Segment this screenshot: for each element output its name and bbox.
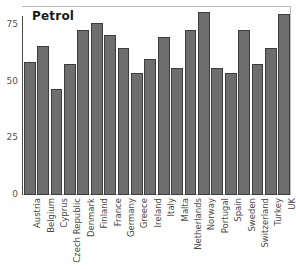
bars-layer [23, 6, 291, 195]
bar [185, 30, 197, 195]
bar [131, 73, 143, 195]
bar [225, 73, 237, 195]
bar [278, 14, 290, 195]
bar [144, 59, 156, 195]
bar [238, 30, 250, 195]
x-tick-label: Greece [140, 198, 149, 228]
bar [104, 35, 116, 195]
bar [118, 48, 130, 195]
x-tick-label: Finland [100, 198, 109, 228]
bar [51, 89, 63, 195]
x-tick-label: Ireland [154, 198, 163, 227]
x-tick-label: Turkey [274, 198, 283, 226]
x-tick-label: Sweden [248, 198, 257, 232]
x-tick-label: Austria [33, 198, 42, 228]
x-axis-tick-labels: AustriaBelgiumCyprusCzech RepublicDenmar… [23, 196, 291, 269]
x-tick-label: Czech Republic [73, 198, 82, 263]
x-tick-label: Belgium [47, 198, 56, 233]
bar [37, 46, 49, 195]
bar [24, 62, 36, 195]
bar [265, 48, 277, 195]
x-tick-label: Malta [181, 198, 190, 221]
bar [91, 23, 103, 195]
bar [77, 30, 89, 195]
bar [198, 12, 210, 195]
x-tick-label: France [114, 198, 123, 226]
x-tick-label: Italy [167, 198, 176, 216]
x-tick-label: Norway [207, 198, 216, 230]
petrol-bar-chart: Petrol 0255075 AustriaBelgiumCyprusCzech… [0, 0, 296, 269]
x-tick-label: Portugal [221, 198, 230, 233]
y-tick-label: 75 [1, 20, 18, 29]
x-tick-label: Netherlands [194, 198, 203, 250]
bar [252, 64, 264, 195]
bar [64, 64, 76, 195]
x-tick-label: Switzerland [261, 198, 270, 248]
y-tick-label: 25 [1, 133, 18, 142]
bar [211, 68, 223, 195]
x-tick-label: Denmark [87, 198, 96, 237]
bar [171, 68, 183, 195]
y-tick-label: 50 [1, 77, 18, 86]
x-tick-label: UK [288, 198, 296, 210]
x-tick-label: Spain [234, 198, 243, 222]
x-tick-label: Germany [127, 198, 136, 237]
bar [158, 37, 170, 195]
y-tick-label: 0 [1, 190, 18, 199]
y-axis-tick-labels: 0255075 [0, 0, 19, 269]
x-tick-label: Cyprus [60, 198, 69, 228]
